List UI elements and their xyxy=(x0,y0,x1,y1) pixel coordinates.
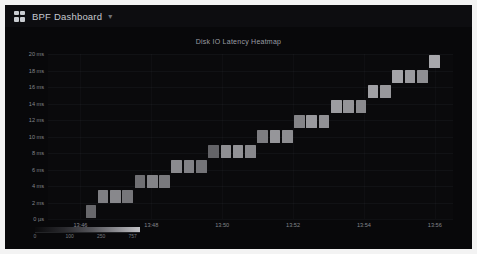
x-gridline xyxy=(222,54,223,219)
screen: BPF Dashboard ▾ Disk IO Latency Heatmap … xyxy=(0,0,477,254)
x-gridline xyxy=(435,54,436,219)
color-legend-tick: 100 xyxy=(65,233,73,239)
heatmap-cell[interactable] xyxy=(356,100,367,113)
panel-title: Disk IO Latency Heatmap xyxy=(5,38,472,45)
heatmap-cell[interactable] xyxy=(270,130,281,143)
heatmap-cell[interactable] xyxy=(159,175,170,188)
heatmap-cell[interactable] xyxy=(405,70,416,83)
app-header: BPF Dashboard ▾ xyxy=(5,5,472,27)
y-gridline xyxy=(48,87,453,88)
x-axis-label: 13:48 xyxy=(144,222,158,228)
heatmap-cell[interactable] xyxy=(368,85,379,98)
heatmap-plot[interactable] xyxy=(48,54,453,219)
y-axis-label: 20 ms xyxy=(29,51,44,57)
y-axis-label: 6 ms xyxy=(32,167,44,173)
heatmap-cell[interactable] xyxy=(208,145,219,158)
color-legend: 0100250757 xyxy=(27,227,145,243)
y-axis-label: 12 ms xyxy=(29,117,44,123)
heatmap-cell[interactable] xyxy=(257,130,268,143)
x-axis-label: 13:54 xyxy=(357,222,371,228)
color-legend-tick: 250 xyxy=(97,233,105,239)
y-axis-label: 18 ms xyxy=(29,68,44,74)
heatmap-cell[interactable] xyxy=(135,175,146,188)
y-axis-label: 2 ms xyxy=(32,200,44,206)
heatmap-cell[interactable] xyxy=(306,115,317,128)
x-gridline xyxy=(364,54,365,219)
y-gridline xyxy=(48,137,453,138)
y-axis-label: 8 ms xyxy=(32,150,44,156)
heatmap-cell[interactable] xyxy=(380,85,391,98)
heatmap-cell[interactable] xyxy=(233,145,244,158)
x-axis-label: 13:56 xyxy=(428,222,442,228)
y-axis-label: 16 ms xyxy=(29,84,44,90)
heatmap-cell[interactable] xyxy=(294,115,305,128)
heatmap-cell[interactable] xyxy=(245,145,256,158)
y-gridline xyxy=(48,203,453,204)
x-gridline xyxy=(293,54,294,219)
color-legend-tick: 757 xyxy=(128,233,136,239)
heatmap-cell[interactable] xyxy=(429,55,440,68)
heatmap-cell[interactable] xyxy=(147,175,158,188)
grid-icon[interactable] xyxy=(14,11,25,22)
heatmap-cell[interactable] xyxy=(319,115,330,128)
heatmap-cell[interactable] xyxy=(417,70,428,83)
y-gridline xyxy=(48,170,453,171)
y-axis-label: 14 ms xyxy=(29,101,44,107)
color-legend-axis xyxy=(35,232,140,233)
y-gridline xyxy=(48,104,453,105)
x-axis-label: 13:50 xyxy=(215,222,229,228)
x-gridline xyxy=(80,54,81,219)
heatmap-cell[interactable] xyxy=(98,190,109,203)
heatmap-cell[interactable] xyxy=(184,160,195,173)
heatmap-cell[interactable] xyxy=(110,190,121,203)
color-legend-tick: 0 xyxy=(34,233,37,239)
heatmap-cell[interactable] xyxy=(221,145,232,158)
heatmap-cell[interactable] xyxy=(171,160,182,173)
y-axis-label: 0 µs xyxy=(33,216,44,222)
heatmap-cell[interactable] xyxy=(392,70,403,83)
x-axis-label: 13:52 xyxy=(286,222,300,228)
y-axis-label: 10 ms xyxy=(29,134,44,140)
heatmap-cell[interactable] xyxy=(196,160,207,173)
y-gridline xyxy=(48,186,453,187)
heatmap-cell[interactable] xyxy=(282,130,293,143)
app-title: BPF Dashboard xyxy=(32,11,102,22)
chevron-down-icon[interactable]: ▾ xyxy=(108,12,112,21)
heatmap-cell[interactable] xyxy=(122,190,133,203)
heatmap-panel: Disk IO Latency Heatmap 0 µs2 ms4 ms6 ms… xyxy=(5,27,472,249)
heatmap-cell[interactable] xyxy=(331,100,342,113)
y-gridline xyxy=(48,54,453,55)
y-axis: 0 µs2 ms4 ms6 ms8 ms10 ms12 ms14 ms16 ms… xyxy=(5,54,44,219)
x-gridline xyxy=(151,54,152,219)
heatmap-cell[interactable] xyxy=(343,100,354,113)
heatmap-cell[interactable] xyxy=(86,205,97,218)
y-gridline xyxy=(48,120,453,121)
y-axis-label: 4 ms xyxy=(32,183,44,189)
